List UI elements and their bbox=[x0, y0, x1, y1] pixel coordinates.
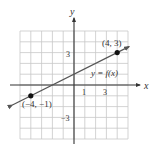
function-graph: x y 1 3 3 −3 (−4, −1) (4, 3) y = f(x) bbox=[0, 0, 154, 151]
y-tick-label-3: 3 bbox=[66, 50, 70, 59]
point-label-b: (4, 3) bbox=[102, 38, 122, 48]
point-label-a: (−4, −1) bbox=[22, 99, 52, 109]
x-tick-label-3: 3 bbox=[103, 88, 107, 97]
x-tick-label-1: 1 bbox=[82, 88, 86, 97]
function-label: y = f(x) bbox=[90, 68, 118, 78]
point-4-3 bbox=[115, 50, 120, 55]
point-neg4-neg1 bbox=[28, 93, 33, 98]
x-axis-label: x bbox=[143, 80, 149, 91]
y-axis-label: y bbox=[69, 6, 75, 17]
y-tick-label-neg3: −3 bbox=[61, 114, 70, 123]
